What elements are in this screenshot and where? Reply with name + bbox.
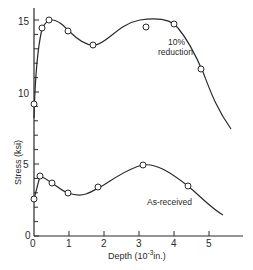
annotation-as-received: As-received	[147, 197, 192, 207]
x-tick-label-4: 4	[171, 238, 177, 249]
x-axis-title-main: Depth (10	[108, 251, 148, 261]
y-axis-title: Stress (ksi)	[13, 140, 23, 185]
annotation-reduction: reduction	[158, 47, 193, 57]
x-tick-label-5: 5	[206, 238, 212, 249]
y-tick-label-15: 15	[18, 16, 30, 27]
x-tick-label-1: 1	[66, 238, 72, 249]
y-tick-label-10: 10	[18, 88, 30, 99]
x-tick-label-3: 3	[136, 238, 142, 249]
annotation-10pct: 10%	[168, 37, 185, 47]
x-ticks	[69, 231, 209, 236]
x-tick-label-0: 0	[30, 238, 36, 249]
axes	[34, 8, 243, 236]
y-tick-label-5: 5	[23, 159, 29, 170]
x-axis-title-unit: in.)	[153, 251, 166, 261]
markers-as-received	[31, 162, 191, 202]
x-tick-label-2: 2	[101, 238, 107, 249]
curve-10pct-reduction	[34, 19, 231, 129]
curve-as-received	[34, 165, 223, 215]
stress-depth-chart: 0 5 10 15 0 1 2 3 4 5 Stress (ksi) Depth…	[0, 0, 253, 270]
x-axis-title: Depth (10-3in.)	[108, 249, 166, 261]
